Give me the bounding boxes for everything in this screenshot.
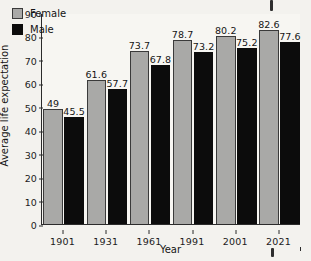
bar-value-label: 45.5: [63, 106, 85, 117]
bar-male-1961: 67.8: [151, 65, 171, 224]
y-axis-label: Average life expectation: [0, 0, 12, 211]
bar-value-label: 49: [47, 98, 59, 109]
y-tick-70: 70: [25, 55, 42, 66]
life-expectancy-bar-chart: Average life expectation 010203040506070…: [0, 0, 311, 261]
bar-value-label: 67.8: [150, 54, 172, 65]
y-tick-40: 40: [25, 126, 42, 137]
bar-male-1991: 73.2: [194, 52, 214, 224]
bar-value-label: 77.6: [279, 31, 301, 42]
legend-label-male: Male: [30, 24, 54, 35]
bar-male-1931: 57.7: [108, 89, 128, 224]
scan-artifact-bottom: [271, 248, 274, 257]
bar-female-1901: 49: [43, 109, 63, 224]
bar-value-label: 75.2: [236, 37, 258, 48]
bar-value-label: 80.2: [215, 25, 237, 36]
x-tick-mark: [192, 230, 193, 234]
x-tick-mark: [300, 247, 301, 251]
x-tick-mark: [235, 230, 236, 234]
y-tick-30: 30: [25, 149, 42, 160]
legend-item-male: Male: [12, 21, 66, 37]
bar-male-2021: 77.6: [280, 42, 300, 224]
x-tick-mark: [278, 230, 279, 234]
female-swatch-icon: [12, 8, 23, 19]
bar-value-label: 73.2: [193, 41, 215, 52]
bar-value-label: 73.7: [129, 40, 151, 51]
x-axis-label: Year: [41, 244, 300, 255]
bar-male-1901: 45.5: [64, 117, 84, 224]
bar-female-2021: 82.6: [259, 30, 279, 224]
bar-male-2001: 75.2: [237, 48, 257, 224]
x-tick-mark: [63, 230, 64, 234]
bar-female-2001: 80.2: [216, 36, 236, 224]
legend-label-female: Female: [30, 8, 66, 19]
legend-item-female: Female: [12, 5, 66, 21]
bar-value-label: 78.7: [172, 29, 194, 40]
bar-female-1991: 78.7: [173, 40, 193, 225]
bar-value-label: 61.6: [85, 69, 107, 80]
male-swatch-icon: [12, 24, 23, 35]
bar-value-label: 57.7: [106, 78, 128, 89]
plot-area: 0102030405060708090 4945.561.657.773.767…: [41, 14, 300, 225]
bar-value-label: 82.6: [258, 19, 280, 30]
y-tick-60: 60: [25, 79, 42, 90]
y-tick-10: 10: [25, 196, 42, 207]
x-tick-mark: [149, 230, 150, 234]
legend: Female Male: [12, 5, 66, 37]
y-tick-20: 20: [25, 173, 42, 184]
bar-female-1961: 73.7: [130, 51, 150, 224]
scan-artifact-top: [270, 0, 273, 11]
x-tick-mark: [106, 230, 107, 234]
y-tick-50: 50: [25, 102, 42, 113]
bar-female-1931: 61.6: [87, 80, 107, 224]
